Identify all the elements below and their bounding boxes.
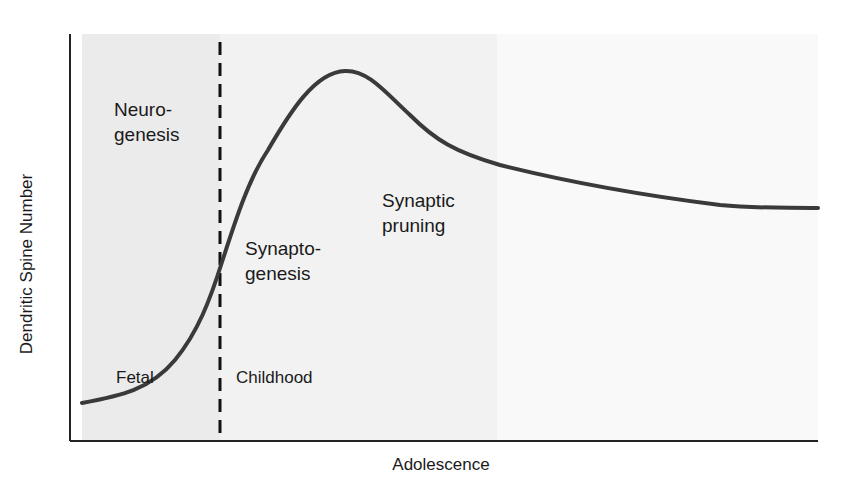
x-axis-label: Adolescence <box>392 455 489 475</box>
pruning-line-2: pruning <box>382 213 455 238</box>
neurogenesis-line-1: Neuro- <box>114 97 180 122</box>
spine-density-figure: Dendritic Spine Number Adolescence Neuro… <box>0 0 844 487</box>
y-axis-label: Dendritic Spine Number <box>17 174 37 354</box>
neurogenesis-line-2: genesis <box>114 122 180 147</box>
chart-canvas <box>0 0 844 487</box>
late-region <box>497 34 818 440</box>
synaptogenesis-line-2: genesis <box>245 261 321 286</box>
fetal-label: Fetal <box>116 368 154 388</box>
neurogenesis-label: Neuro- genesis <box>114 97 180 147</box>
synaptogenesis-line-1: Synapto- <box>245 236 321 261</box>
synaptic-pruning-label: Synaptic pruning <box>382 188 455 238</box>
childhood-label: Childhood <box>236 368 313 388</box>
pruning-line-1: Synaptic <box>382 188 455 213</box>
synaptogenesis-label: Synapto- genesis <box>245 236 321 286</box>
